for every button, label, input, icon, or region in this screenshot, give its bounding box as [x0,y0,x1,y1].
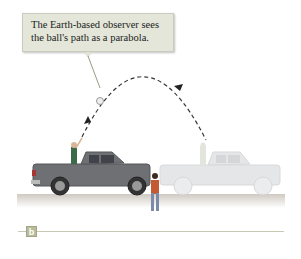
thrower-figure [71,138,82,164]
parabola-path [82,77,206,140]
ghost-truck [160,143,280,196]
pickup-truck [31,152,150,195]
panel-label: b [26,226,37,237]
panel-divider [18,231,284,232]
ball [97,98,104,105]
diagram-scene [0,0,301,259]
arrow-down-icon [174,84,183,91]
callout-pointer [84,52,100,88]
